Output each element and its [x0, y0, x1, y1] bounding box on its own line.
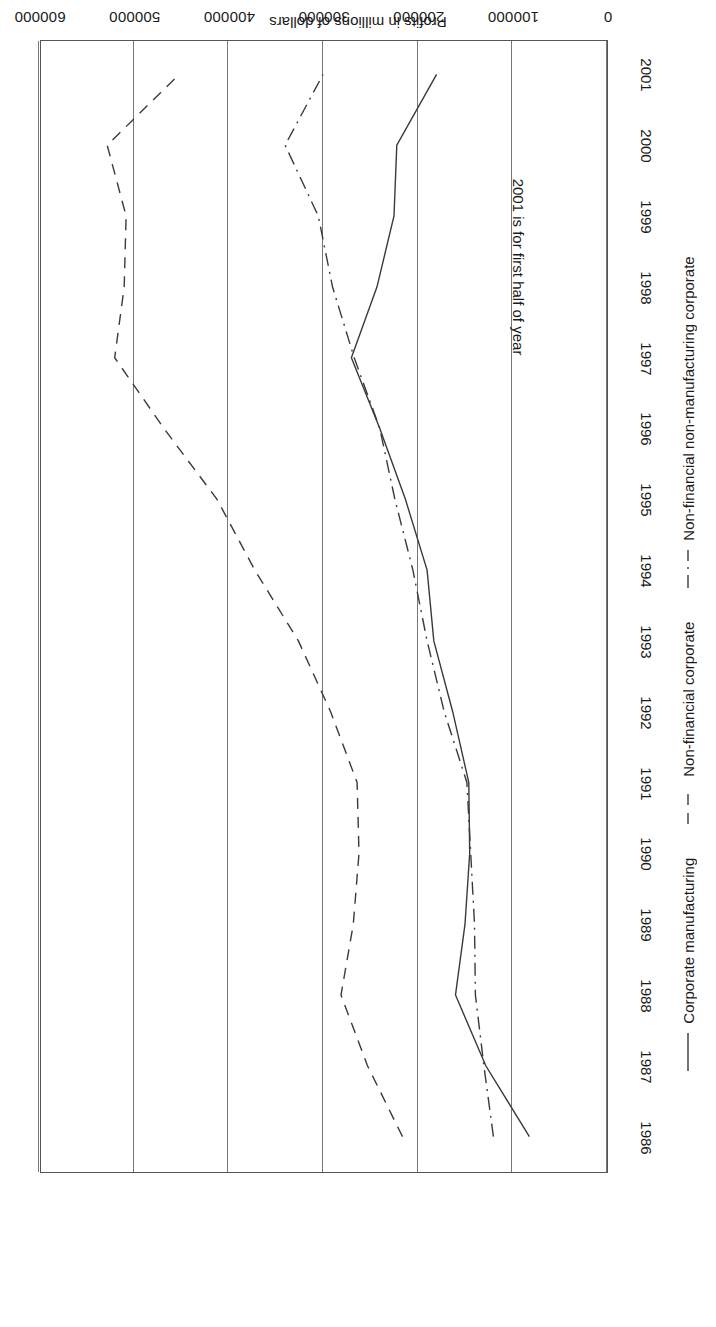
year-tick-1995: 1995: [638, 472, 655, 528]
year-tick-1989: 1989: [638, 897, 655, 953]
legend-item-1[interactable]: Non-financial corporate: [680, 622, 697, 824]
series-line-solid: [351, 74, 529, 1136]
year-tick-1987: 1987: [638, 1039, 655, 1095]
year-tick-1997: 1997: [638, 331, 655, 387]
year-tick-1993: 1993: [638, 614, 655, 670]
legend-item-0[interactable]: Corporate manufacturing: [680, 858, 697, 1071]
year-tick-1999: 1999: [638, 189, 655, 245]
legend-swatch-dashed-icon: [683, 786, 693, 824]
year-tick-1988: 1988: [638, 968, 655, 1024]
rotated-figure-container: 6000005000004000003000002000001000000 19…: [0, 0, 716, 1327]
chart-annotation: 2001 is for first half of year: [510, 178, 527, 355]
series-line-dashed: [107, 74, 402, 1136]
legend-item-2[interactable]: Non-financial non-manufacturing corporat…: [680, 256, 697, 587]
year-tick-1998: 1998: [638, 260, 655, 316]
year-tick-1992: 1992: [638, 685, 655, 741]
year-tick-2001: 2001: [638, 47, 655, 103]
year-tick-1986: 1986: [638, 1110, 655, 1166]
value-axis-title: Profits in millions of dollars: [0, 14, 716, 31]
legend-swatch-solid-icon: [683, 1033, 693, 1071]
year-tick-2000: 2000: [638, 118, 655, 174]
legend-swatch-dashdot-icon: [683, 550, 693, 588]
legend-label: Non-financial corporate: [680, 622, 697, 777]
legend-label: Non-financial non-manufacturing corporat…: [680, 256, 697, 540]
chart-legend: Corporate manufacturingNon-financial cor…: [660, 0, 716, 1327]
year-tick-1994: 1994: [638, 543, 655, 599]
year-tick-1991: 1991: [638, 756, 655, 812]
year-tick-1990: 1990: [638, 826, 655, 882]
legend-label: Corporate manufacturing: [680, 858, 697, 1024]
year-tick-1996: 1996: [638, 401, 655, 457]
figure-inner: 6000005000004000003000002000001000000 19…: [0, 0, 716, 1327]
